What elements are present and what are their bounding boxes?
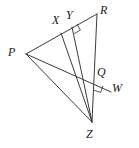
vertex-label-Y: Y	[66, 9, 73, 21]
vertex-label-Z: Z	[86, 128, 93, 140]
vertex-label-W: W	[112, 82, 122, 94]
vertex-label-Q: Q	[97, 66, 106, 78]
geometry-figure: P X Y R Q W Z	[0, 0, 139, 148]
right-angle-at-Q-mark	[94, 86, 103, 92]
vertex-label-R: R	[100, 4, 107, 16]
vertex-label-X: X	[52, 14, 59, 26]
figure-canvas	[0, 0, 139, 148]
segment-PZ	[26, 54, 92, 122]
right-angle-at-Y-mark	[74, 24, 80, 34]
vertex-label-P: P	[8, 46, 15, 58]
